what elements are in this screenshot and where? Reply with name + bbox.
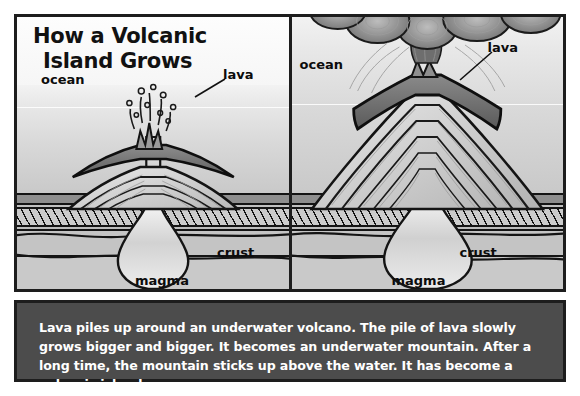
label-crust-right: crust: [460, 245, 497, 260]
label-lava-left: lava: [223, 67, 253, 82]
sea-level-line-right: [292, 104, 564, 105]
figure-page: How a Volcanic Island Grows ocean lava c…: [0, 0, 580, 396]
ocean-water-right: [292, 17, 564, 193]
ocean-water-left: [17, 85, 289, 193]
title-line-2: Island Grows: [33, 49, 207, 74]
caption-box: Lava piles up around an underwater volca…: [14, 300, 566, 382]
volcanic-island-figure: How a Volcanic Island Grows ocean lava c…: [14, 14, 566, 382]
caption-text: Lava piles up around an underwater volca…: [17, 303, 563, 394]
hatched-rock-layer-left: [17, 207, 292, 227]
page-title: How a Volcanic Island Grows: [33, 24, 207, 74]
label-crust-left: crust: [217, 245, 254, 260]
title-line-1: How a Volcanic: [33, 24, 207, 49]
crust-layer-upper-right: [292, 229, 564, 255]
sea-level-line-left: [17, 107, 289, 108]
label-magma-right: magma: [392, 273, 446, 288]
seabed-layer-left: [17, 193, 292, 205]
diagram-panels: How a Volcanic Island Grows ocean lava c…: [14, 14, 566, 292]
panel-stage-1: How a Volcanic Island Grows ocean lava c…: [17, 17, 292, 289]
panel-stage-2: ocean lava crust magma: [292, 17, 564, 289]
label-lava-right: lava: [488, 40, 518, 55]
label-magma-left: magma: [135, 273, 189, 288]
label-ocean-right: ocean: [300, 57, 343, 72]
hatched-rock-layer-right: [292, 207, 564, 227]
seabed-layer-right: [292, 193, 564, 205]
label-ocean-left: ocean: [41, 72, 84, 87]
